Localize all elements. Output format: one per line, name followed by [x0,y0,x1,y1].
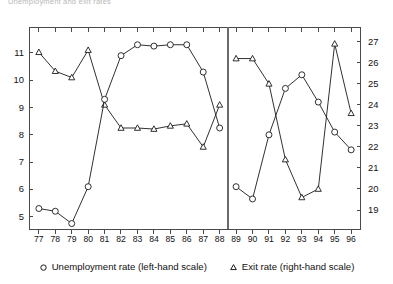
legend-label-exit: Exit rate (right-hand scale) [242,261,355,272]
left-y-tick [29,189,33,190]
right-y-tick [357,41,361,42]
x-tick-top [120,27,121,32]
right-y-tick-label: 20 [368,183,390,194]
right-y-tick [357,104,361,105]
x-tick-top [38,27,39,32]
right-y-tick-label: 27 [368,36,390,47]
left-y-tick-label: 7 [2,156,24,167]
x-tick-top [219,27,220,32]
right-y-tick [357,167,361,168]
x-axis-line [29,229,361,230]
left-y-tick [29,134,33,135]
left-y-tick [29,162,33,163]
triangle-marker-icon [229,262,238,271]
x-tick-top [236,27,237,32]
x-tick-top [170,27,171,32]
chart-figure: Unemployment and exit rates 777879808182… [0,0,393,284]
x-tick-top [285,27,286,32]
left-y-tick-label: 11 [2,47,24,58]
left-y-tick [29,80,33,81]
right-y-tick [357,83,361,84]
right-y-tick-label: 22 [368,141,390,152]
right-y-tick-label: 26 [368,57,390,68]
circle-marker-icon [39,262,48,271]
legend-label-unemployment: Unemployment rate (left-hand scale) [52,261,207,272]
left-y-tick-label: 5 [2,211,24,222]
left-y-tick [29,216,33,217]
x-tick-top [318,27,319,32]
x-tick-top [301,27,302,32]
right-y-tick-label: 21 [368,162,390,173]
right-y-tick [357,210,361,211]
right-y-tick [357,188,361,189]
x-tick-top [203,27,204,32]
left-y-tick-label: 9 [2,102,24,113]
x-tick-top [268,27,269,32]
left-y-tick-label: 8 [2,129,24,140]
x-tick-top [351,27,352,32]
right-y-tick [357,125,361,126]
right-y-tick-label: 23 [368,120,390,131]
right-y-tick-label: 19 [368,204,390,215]
x-tick-top [88,27,89,32]
left-y-tick-label: 10 [2,74,24,85]
x-tick-top [186,27,187,32]
x-tick-top [153,27,154,32]
left-y-tick [29,107,33,108]
chart-title: Unemployment and exit rates [8,0,268,6]
x-tick-top [55,27,56,32]
x-tick-top [71,27,72,32]
x-tick-top [252,27,253,32]
x-tick-label: 96 [341,234,361,244]
unemployment-rate-series [29,27,361,229]
legend-item-unemployment: Unemployment rate (left-hand scale) [39,261,207,272]
right-y-tick-label: 25 [368,78,390,89]
right-y-tick-label: 24 [368,99,390,110]
left-y-tick-label: 6 [2,183,24,194]
plot-area [29,27,361,229]
legend-item-exit: Exit rate (right-hand scale) [229,261,355,272]
x-tick-top [334,27,335,32]
chart-legend: Unemployment rate (left-hand scale) Exit… [0,258,393,274]
right-y-tick [357,62,361,63]
x-tick-top [104,27,105,32]
x-tick-top [137,27,138,32]
left-y-tick [29,52,33,53]
right-y-tick [357,146,361,147]
